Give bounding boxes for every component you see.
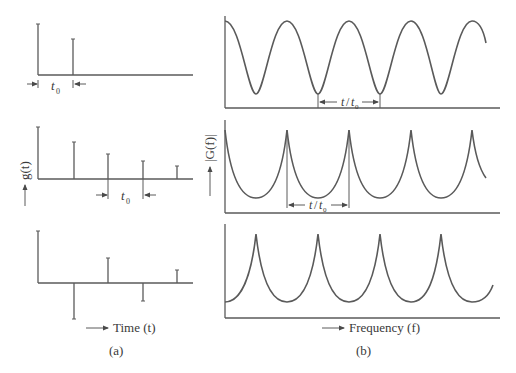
svg-text:/: / (314, 198, 318, 212)
svg-text:0: 0 (323, 206, 327, 214)
svg-text:Frequency (f): Frequency (f) (349, 320, 420, 335)
spacing-indicator: t 0 (96, 179, 156, 206)
spectrum-plot-row-2: t / t 0 |G(f)| (202, 120, 500, 214)
spectrum-plot-row-1: t / t 0 (225, 16, 500, 111)
fourier-pair-diagram: t 0 t 0 (0, 0, 516, 373)
spacing-indicator: t 0 (27, 78, 86, 96)
spectrum-curve (225, 130, 486, 198)
x-axis-label-time: Time (t) (86, 320, 156, 335)
impulse-plot-row-3 (36, 231, 193, 319)
spacing-label: t (51, 78, 55, 93)
svg-text:0: 0 (126, 197, 130, 206)
svg-text:|G(f)|: |G(f)| (202, 134, 217, 162)
svg-text:t: t (341, 95, 345, 109)
svg-text:/: / (346, 95, 350, 109)
y-axis-label-g-t: g(t) (17, 161, 32, 206)
y-axis-label-G-f: |G(f)| (202, 134, 217, 196)
caption-a: (a) (109, 343, 123, 358)
panel-b: t / t 0 t / t 0 |G(f)| (202, 16, 500, 358)
spectrum-curve (225, 234, 493, 302)
svg-text:0: 0 (56, 87, 60, 96)
panel-a: t 0 t 0 (17, 24, 193, 358)
svg-text:Time (t): Time (t) (113, 320, 156, 335)
svg-text:t: t (309, 198, 313, 212)
spectrum-plot-row-3 (225, 224, 500, 318)
impulse-plot-row-2: t 0 g(t) (17, 127, 193, 206)
svg-text:0: 0 (355, 103, 359, 111)
x-axis-label-frequency: Frequency (f) (322, 320, 420, 335)
spectrum-curve (225, 21, 486, 94)
spacing-label: t (121, 188, 125, 203)
caption-b: (b) (356, 343, 371, 358)
svg-text:g(t): g(t) (17, 161, 32, 180)
period-indicator: t / t 0 (287, 130, 349, 214)
impulse-plot-row-1: t 0 (27, 24, 193, 96)
